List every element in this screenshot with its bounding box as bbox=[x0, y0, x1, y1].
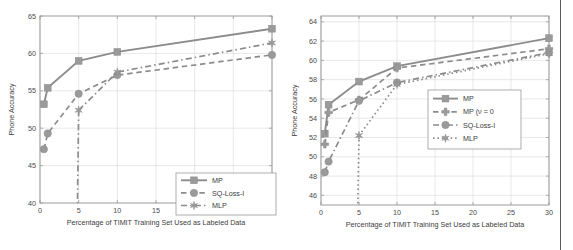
panel-left-svg: 051015202530404550556065Percentage of TI… bbox=[0, 0, 287, 250]
legend[interactable]: MPMP (ν = 0SQ-Loss-IMLP bbox=[428, 90, 521, 149]
series-sq-loss-i bbox=[40, 51, 276, 153]
legend[interactable]: MPSQ-Loss-IMLP bbox=[176, 173, 276, 215]
x-tick-label: 10 bbox=[393, 208, 401, 217]
right-chart-panel: 05101520253046485052545658606264Percenta… bbox=[287, 0, 573, 250]
y-tick-label: 58 bbox=[309, 75, 317, 84]
x-tick-label: 15 bbox=[152, 206, 160, 215]
x-tick-label: 0 bbox=[319, 208, 323, 217]
x-axis-title: Percentage of TIMIT Training Set Used as… bbox=[346, 220, 525, 229]
x-tick-label: 10 bbox=[113, 206, 121, 215]
legend-label: MLP bbox=[212, 201, 227, 210]
legend-label: MP bbox=[463, 94, 474, 103]
page-edge-rule bbox=[560, 0, 561, 250]
x-tick-label: 5 bbox=[357, 208, 361, 217]
y-tick-label: 62 bbox=[309, 37, 317, 46]
figure-container: 051015202530404550556065Percentage of TI… bbox=[0, 0, 573, 250]
y-tick-label: 48 bbox=[309, 172, 317, 181]
x-tick-label: 20 bbox=[469, 208, 477, 217]
legend-label: MP (ν = 0 bbox=[463, 107, 494, 116]
y-tick-label: 54 bbox=[309, 114, 317, 123]
y-tick-label: 46 bbox=[309, 191, 317, 200]
y-tick-label: 52 bbox=[309, 133, 317, 142]
y-tick-label: 55 bbox=[28, 86, 36, 95]
x-axis-title: Percentage of TIMIT Training Set Used as… bbox=[67, 218, 246, 227]
y-tick-label: 50 bbox=[28, 124, 36, 133]
y-tick-label: 65 bbox=[28, 12, 36, 21]
y-tick-label: 45 bbox=[28, 161, 36, 170]
x-tick-label: 25 bbox=[507, 208, 515, 217]
x-tick-label: 30 bbox=[545, 208, 553, 217]
panel-right-svg: 05101520253046485052545658606264Percenta… bbox=[287, 0, 573, 250]
y-tick-label: 64 bbox=[309, 17, 317, 26]
y-tick-label: 56 bbox=[309, 95, 317, 104]
y-tick-label: 50 bbox=[309, 152, 317, 161]
legend-label: SQ-Loss-I bbox=[463, 121, 495, 130]
y-tick-label: 60 bbox=[309, 56, 317, 65]
x-tick-label: 0 bbox=[38, 206, 42, 215]
legend-label: SQ-Loss-I bbox=[212, 189, 244, 198]
x-tick-label: 15 bbox=[431, 208, 439, 217]
y-axis-title: Phone Accuracy bbox=[290, 84, 299, 136]
left-chart-panel: 051015202530404550556065Percentage of TI… bbox=[0, 0, 287, 250]
y-axis-title: Phone Accuracy bbox=[7, 83, 16, 135]
x-tick-label: 5 bbox=[77, 206, 81, 215]
y-tick-label: 60 bbox=[28, 49, 36, 58]
legend-label: MP bbox=[212, 176, 223, 185]
y-tick-label: 40 bbox=[28, 199, 36, 208]
legend-label: MLP bbox=[463, 134, 478, 143]
